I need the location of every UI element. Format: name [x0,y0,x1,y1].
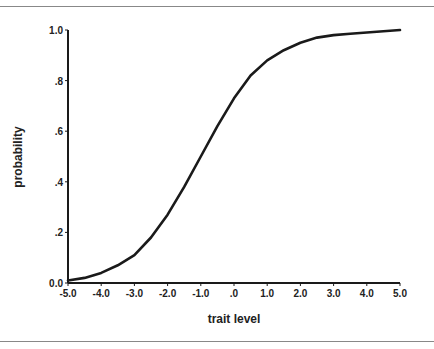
probability-curve [68,30,400,281]
y-tick-label: .8 [55,76,64,87]
x-axis-title: trait level [208,312,261,326]
y-tick-label: 0.0 [49,278,63,289]
x-tick-label: -4.0 [93,288,111,299]
x-tick-label: 3.0 [327,288,341,299]
x-tick-label: 5.0 [393,288,407,299]
x-tick-label: -2.0 [159,288,177,299]
y-axis-title: probability [11,126,25,188]
x-tick-label: .0 [230,288,239,299]
axes [68,30,400,283]
y-tick-label: .4 [55,177,64,188]
x-tick-label: 4.0 [360,288,374,299]
y-tick-label: .2 [55,227,64,238]
x-tick-label: -1.0 [192,288,210,299]
x-tick-label: 1.0 [260,288,274,299]
chart-plot: -5.0-4.0-3.0-2.0-1.0.01.02.03.04.05.0 0.… [0,0,434,349]
x-tick-label: 2.0 [293,288,307,299]
x-tick-label: -3.0 [126,288,144,299]
x-tick-label: -5.0 [59,288,77,299]
y-axis-ticks: 0.0.2.4.6.81.0 [49,25,68,289]
y-tick-label: 1.0 [49,25,63,36]
x-axis-ticks: -5.0-4.0-3.0-2.0-1.0.01.02.03.04.05.0 [59,283,407,299]
y-tick-label: .6 [55,126,64,137]
